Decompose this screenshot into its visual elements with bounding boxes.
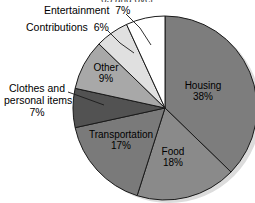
label-food-value: 18% [152, 157, 194, 168]
label-entertainment: Entertainment 7% [44, 5, 130, 17]
label-transportation-value: 17% [80, 140, 162, 151]
label-transportation-name: Transportation [80, 129, 162, 140]
label-transportation: Transportation 17% [80, 129, 162, 151]
label-housing-value: 38% [177, 91, 229, 102]
label-clothes-and-personal-items: Clothes and personal items 7% [4, 83, 70, 118]
label-other: Other 9% [85, 62, 127, 84]
label-housing-name: Housing [177, 80, 229, 91]
label-clothes-line1: Clothes and [4, 83, 70, 95]
pie-chart-figure: 65 and over Entertainment 7% Contributio… [0, 0, 255, 203]
label-entertainment-value: 7% [115, 4, 130, 16]
label-other-value: 9% [85, 73, 127, 84]
label-other-name: Other [85, 62, 127, 73]
pie-slices [73, 16, 255, 200]
label-clothes-value: 7% [4, 107, 70, 119]
label-clothes-line2: personal items [4, 95, 70, 107]
label-contributions-value: 6% [94, 21, 109, 33]
label-contributions-name: Contributions [26, 21, 88, 33]
label-housing: Housing 38% [177, 80, 229, 102]
label-entertainment-name: Entertainment [44, 4, 109, 16]
label-contributions: Contributions 6% [26, 22, 109, 34]
